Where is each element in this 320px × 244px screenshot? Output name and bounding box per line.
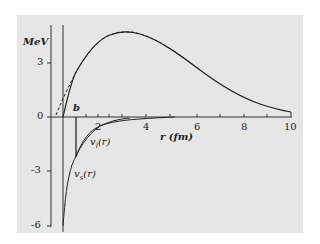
y-tick-3: 3 (37, 56, 43, 67)
x-tick-4: 4 (143, 121, 149, 132)
x-tick-10: 10 (284, 121, 297, 132)
x-tick-6: 6 (194, 121, 200, 132)
vs-label: vs(r) (74, 168, 96, 182)
x-tick-2: 2 (95, 121, 101, 132)
y-tick-0: 0 (37, 110, 43, 121)
x-tick-8: 8 (241, 121, 247, 132)
y-axis-unit: MeV (23, 36, 48, 47)
b-label: b (73, 102, 80, 113)
x-axis-label: r (fm) (160, 131, 193, 142)
total-potential-curve (63, 32, 291, 117)
vl-label: vl(r) (90, 136, 111, 150)
x-ticks (86, 112, 291, 117)
y-tick-m6: -6 (31, 219, 41, 230)
y-tick-m3: -3 (31, 164, 41, 175)
